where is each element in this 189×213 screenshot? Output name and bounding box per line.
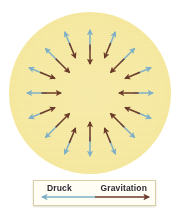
gravitation-arrow-icon-13 [105,128,111,143]
legend-box: Druck Gravitation [33,180,156,206]
gravitation-arrow-icon-2 [111,59,125,73]
gravitation-arrow-icon-9 [40,108,55,114]
star-diagram [9,12,171,174]
gravitation-arrow-icon-11 [69,128,75,143]
gravitation-arrow-icon-6 [56,59,70,73]
legend-arrows [38,191,153,202]
gravitation-arrow-icon-7 [40,72,55,78]
stellar-equilibrium-figure: Druck Gravitation [0,0,189,213]
arrow-layer [27,30,153,156]
gravitation-arrow-icon-15 [125,108,140,114]
gravitation-arrow-icon-1 [125,72,140,78]
gravitation-arrow-icon-14 [111,114,125,128]
gravitation-arrow-icon-10 [56,114,70,128]
gravitation-arrow-icon-5 [69,43,75,58]
force-arrows-group [9,12,171,174]
gravitation-arrow-icon-3 [105,43,111,58]
